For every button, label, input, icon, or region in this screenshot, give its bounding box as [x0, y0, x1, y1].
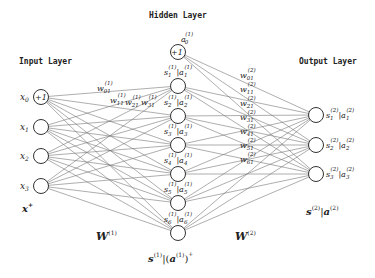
neural-network-diagram: Input Layer Hidden Layer Output Layer +1…	[0, 0, 375, 278]
input-node-0: +1 x0	[20, 90, 49, 105]
svg-text:s1(2)|a1(2): s1(2)|a1(2)	[326, 107, 354, 121]
svg-text:s6(1)|a6(1): s6(1)|a6(1)	[164, 211, 192, 225]
svg-text:x0: x0	[20, 92, 29, 103]
W2-caption: W(2)	[235, 229, 256, 243]
svg-text:s3(2)|a3(2): s3(2)|a3(2)	[326, 166, 354, 180]
output-layer-nodes: s1(2)|a1(2)s2(2)|a2(2)s3(2)|a3(2)	[309, 107, 355, 182]
svg-text:x1: x1	[20, 122, 29, 133]
svg-text:x2: x2	[20, 151, 29, 162]
weight-label-w21-1: w21(1)	[125, 94, 141, 108]
output-node-3: s3(2)|a3(2)	[309, 166, 355, 182]
output-layer-title: Output Layer	[299, 57, 357, 66]
input-node-3: x3	[20, 179, 49, 194]
svg-text:x3: x3	[20, 181, 29, 192]
hidden-bias-node: +1 a0(1)	[171, 31, 194, 60]
edges-input-to-hidden	[41, 86, 178, 233]
hidden-vector-caption: s(1)|(a(1))+	[148, 250, 193, 265]
svg-text:+1: +1	[171, 48, 183, 57]
W1-caption: W(1)	[96, 229, 117, 243]
weight-label-w01-2: w01(2)	[240, 67, 256, 81]
input-node-2: x2	[20, 149, 49, 164]
hidden-layer-title: Hidden Layer	[149, 10, 207, 20]
weight-label-w11-2: w11(2)	[240, 81, 256, 95]
output-node-1: s1(2)|a1(2)	[309, 107, 355, 123]
input-layer-title: Input Layer	[19, 57, 72, 66]
weight-label-w11-1: w11(1)	[110, 92, 126, 106]
bias-label: +1	[35, 93, 47, 102]
svg-text:s2(1)|a2(1): s2(1)|a2(1)	[164, 94, 192, 108]
svg-text:s4(1)|a4(1): s4(1)|a4(1)	[164, 152, 192, 166]
output-vector-caption: s(2)|a(2)	[306, 204, 339, 218]
output-node-2: s2(2)|a2(2)	[309, 137, 355, 153]
svg-text:s1(1)|a1(1): s1(1)|a1(1)	[164, 64, 192, 78]
svg-text:s5(1)|a5(1): s5(1)|a5(1)	[164, 181, 192, 195]
weight-label-w01-1: w01(1)	[97, 80, 113, 94]
svg-text:s2(2)|a2(2): s2(2)|a2(2)	[326, 137, 354, 151]
input-vector-caption: x+	[21, 201, 33, 214]
weight-labels-layer1: w01(1)w11(1)w21(1)w31(1)	[97, 80, 157, 108]
input-node-1: x1	[20, 120, 49, 135]
hidden-node-4: s4(1)|a4(1)	[164, 152, 192, 182]
svg-text:s3(1)|a3(1): s3(1)|a3(1)	[164, 123, 192, 137]
svg-text:a0(1): a0(1)	[181, 31, 193, 45]
